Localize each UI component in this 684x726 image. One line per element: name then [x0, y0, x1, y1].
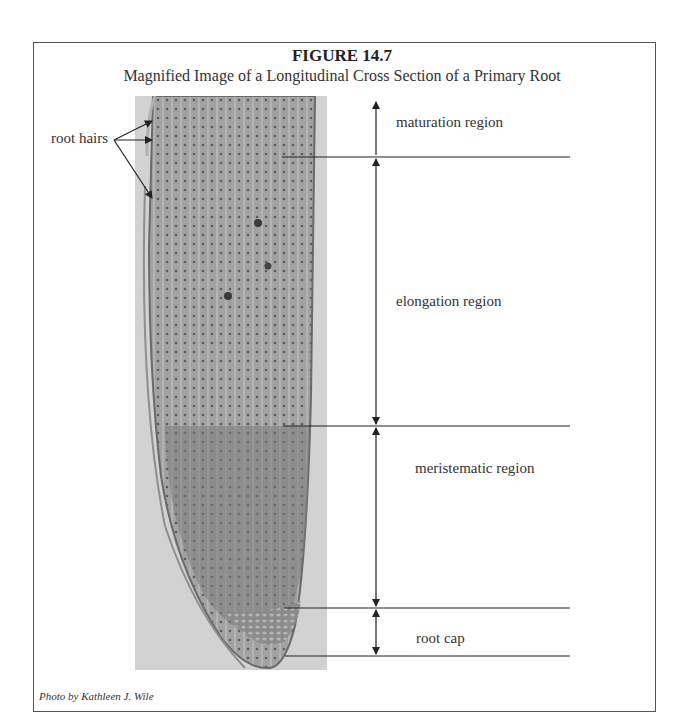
- meristematic-region-label: meristematic region: [415, 460, 535, 477]
- root-hairs-arrows: [114, 121, 152, 198]
- maturation-region-label: maturation region: [396, 114, 503, 131]
- photo-credit: Photo by Kathleen J. Wile: [39, 690, 154, 702]
- root-hairs-label: root hairs: [51, 130, 108, 147]
- elongation-region-label: elongation region: [396, 293, 501, 310]
- annotation-lines: [0, 0, 684, 726]
- root-cap-label: root cap: [416, 630, 465, 647]
- region-boundaries: [282, 157, 570, 656]
